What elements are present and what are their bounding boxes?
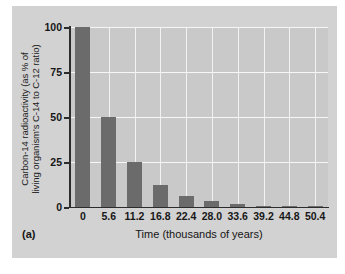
panel-label: (a) [22,228,35,240]
y-tick-label: 25 [22,156,62,168]
bar [153,185,168,208]
gridline-vertical [315,27,316,207]
y-tick-label: 75 [22,66,62,78]
y-tick-mark [64,117,69,119]
y-tick-label: 50 [22,111,62,123]
bar [75,27,90,207]
y-tick-label: 0 [22,201,62,213]
plot-area [70,27,328,207]
bar [127,162,142,207]
x-tick-label: 50.4 [292,210,338,222]
x-axis-line [69,207,329,209]
figure-panel: Carbon-14 radioactivity (as % of living … [0,0,345,274]
bar [101,117,116,207]
gridline-vertical [289,27,290,207]
y-tick-mark [64,162,69,164]
gridline-vertical [264,27,265,207]
y-tick-mark [64,27,69,29]
gridline-vertical [160,27,161,207]
y-axis-line [69,26,71,208]
x-axis-title: Time (thousands of years) [70,228,328,240]
y-tick-mark [64,72,69,74]
gridline-vertical [212,27,213,207]
y-tick-label: 100 [22,21,62,33]
gridline-vertical [238,27,239,207]
bar [179,196,194,207]
y-tick-mark [64,207,69,209]
gridline-vertical [186,27,187,207]
